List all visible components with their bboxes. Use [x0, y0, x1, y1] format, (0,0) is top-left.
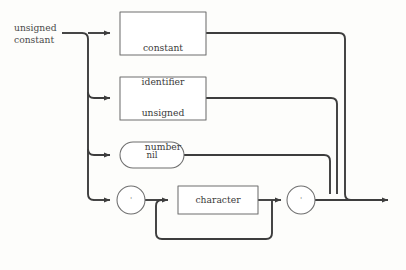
- branch-line-3: [88, 149, 110, 155]
- close-quote-circle: [287, 186, 315, 214]
- entry-label: unsigned constant: [14, 22, 80, 46]
- entry-label-line2: constant: [14, 34, 80, 46]
- nil-stadium: [120, 142, 184, 168]
- syntax-diagram: unsigned constant constant identifier un…: [0, 0, 406, 270]
- open-quote-circle: [117, 186, 145, 214]
- entry-label-line1: unsigned: [14, 22, 80, 34]
- branch-line-2: [88, 92, 110, 98]
- left-branch-rail: [82, 33, 94, 200]
- exit-line-2: [206, 98, 337, 194]
- unsigned-number-box: [120, 77, 206, 120]
- constant-identifier-box: [120, 12, 206, 55]
- character-box: [178, 186, 258, 214]
